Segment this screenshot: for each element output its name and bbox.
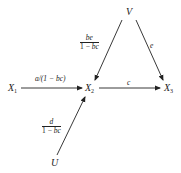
node-x3-sub: 3 — [170, 88, 173, 94]
node-v-label: V — [126, 6, 132, 17]
node-u: U — [51, 158, 58, 168]
fraction-denominator: 1 − bc — [42, 127, 61, 135]
edge-u-x2-label: d 1 − bc — [42, 118, 61, 135]
den-var: bc — [92, 42, 99, 51]
node-x2-sub: 2 — [91, 88, 94, 94]
edge-x2-x3-text: c — [127, 78, 130, 87]
edge-v-x3-label: e — [150, 42, 153, 50]
node-x1-sub: 1 — [14, 88, 17, 94]
fraction-denominator: 1 − bc — [80, 43, 99, 51]
fraction: be 1 − bc — [80, 34, 99, 51]
den-var: bc — [54, 126, 61, 135]
node-x2: X2 — [85, 83, 94, 96]
den-prefix: 1 − — [42, 126, 54, 135]
edge-x1-x2-label: a/(1 − bc) — [35, 75, 65, 83]
edge-x2-x3-label: c — [127, 79, 130, 87]
node-x1: X1 — [8, 83, 17, 96]
edge-v-x3-text: e — [150, 41, 153, 50]
fraction: d 1 − bc — [42, 118, 61, 135]
edge-v-x2 — [95, 20, 122, 80]
node-u-label: U — [51, 157, 58, 168]
edge-v-x2-label: be 1 − bc — [80, 34, 99, 51]
node-x3: X3 — [164, 83, 173, 96]
node-v: V — [126, 7, 132, 17]
edge-u-x2 — [57, 97, 85, 155]
den-prefix: 1 − — [80, 42, 92, 51]
edge-v-x3 — [136, 20, 163, 80]
edge-x1-x2-text: a/(1 − bc) — [35, 74, 65, 83]
